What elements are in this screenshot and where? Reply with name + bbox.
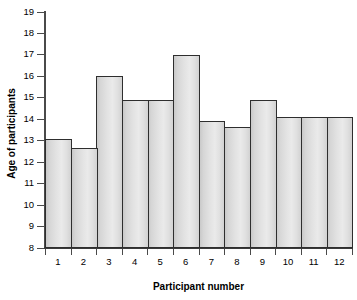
y-tick-mark	[37, 248, 44, 249]
bar	[71, 148, 98, 248]
bar	[122, 100, 149, 248]
bar	[326, 117, 353, 248]
y-tick-label: 15	[0, 92, 34, 102]
x-tick-mark	[301, 249, 302, 255]
y-tick-label: 9	[0, 221, 34, 231]
bar	[250, 100, 277, 248]
y-tick-mark	[37, 97, 44, 98]
x-tick-mark	[224, 249, 225, 255]
x-tick-label: 11	[302, 257, 326, 267]
y-tick-mark	[37, 183, 44, 184]
bar	[173, 55, 200, 248]
x-tick-label: 12	[327, 257, 351, 267]
x-tick-mark	[352, 249, 353, 255]
x-tick-mark	[199, 249, 200, 255]
y-tick-label: 17	[0, 49, 34, 59]
x-tick-label: 1	[46, 257, 70, 267]
y-tick-mark	[37, 205, 44, 206]
y-tick-label: 19	[0, 7, 34, 17]
y-tick-label: 13	[0, 135, 34, 145]
bar-chart: Age of participants 89101112131415161718…	[0, 0, 357, 300]
x-tick-label: 4	[123, 257, 147, 267]
y-tick-label: 14	[0, 114, 34, 124]
x-tick-label: 10	[276, 257, 300, 267]
x-tick-label: 2	[71, 257, 95, 267]
x-tick-mark	[250, 249, 251, 255]
bar	[147, 100, 174, 248]
bar	[199, 121, 226, 248]
y-tick-label: 11	[0, 178, 34, 188]
x-tick-mark	[96, 249, 97, 255]
x-tick-mark	[326, 249, 327, 255]
x-tick-mark	[122, 249, 123, 255]
x-tick-label: 5	[148, 257, 172, 267]
y-tick-label: 12	[0, 157, 34, 167]
x-axis-title: Participant number	[45, 281, 352, 292]
x-tick-label: 9	[250, 257, 274, 267]
bar	[275, 117, 302, 248]
y-tick-label: 8	[0, 243, 34, 253]
y-tick-label: 10	[0, 200, 34, 210]
x-tick-label: 7	[199, 257, 223, 267]
y-tick-mark	[37, 12, 44, 13]
x-tick-mark	[275, 249, 276, 255]
x-tick-mark	[71, 249, 72, 255]
x-tick-mark	[45, 249, 46, 255]
x-tick-mark	[147, 249, 148, 255]
x-tick-label: 8	[225, 257, 249, 267]
x-tick-label: 3	[97, 257, 121, 267]
y-tick-mark	[37, 140, 44, 141]
y-tick-mark	[37, 119, 44, 120]
y-tick-mark	[37, 33, 44, 34]
x-tick-mark	[173, 249, 174, 255]
bars-container	[45, 0, 353, 248]
y-tick-mark	[37, 76, 44, 77]
bar	[224, 127, 251, 248]
y-tick-label: 16	[0, 71, 34, 81]
y-tick-mark	[37, 162, 44, 163]
bar	[45, 139, 72, 248]
y-tick-label: 18	[0, 28, 34, 38]
y-tick-mark	[37, 226, 44, 227]
bar	[301, 117, 328, 248]
y-tick-mark	[37, 54, 44, 55]
x-tick-label: 6	[174, 257, 198, 267]
bar	[96, 76, 123, 248]
